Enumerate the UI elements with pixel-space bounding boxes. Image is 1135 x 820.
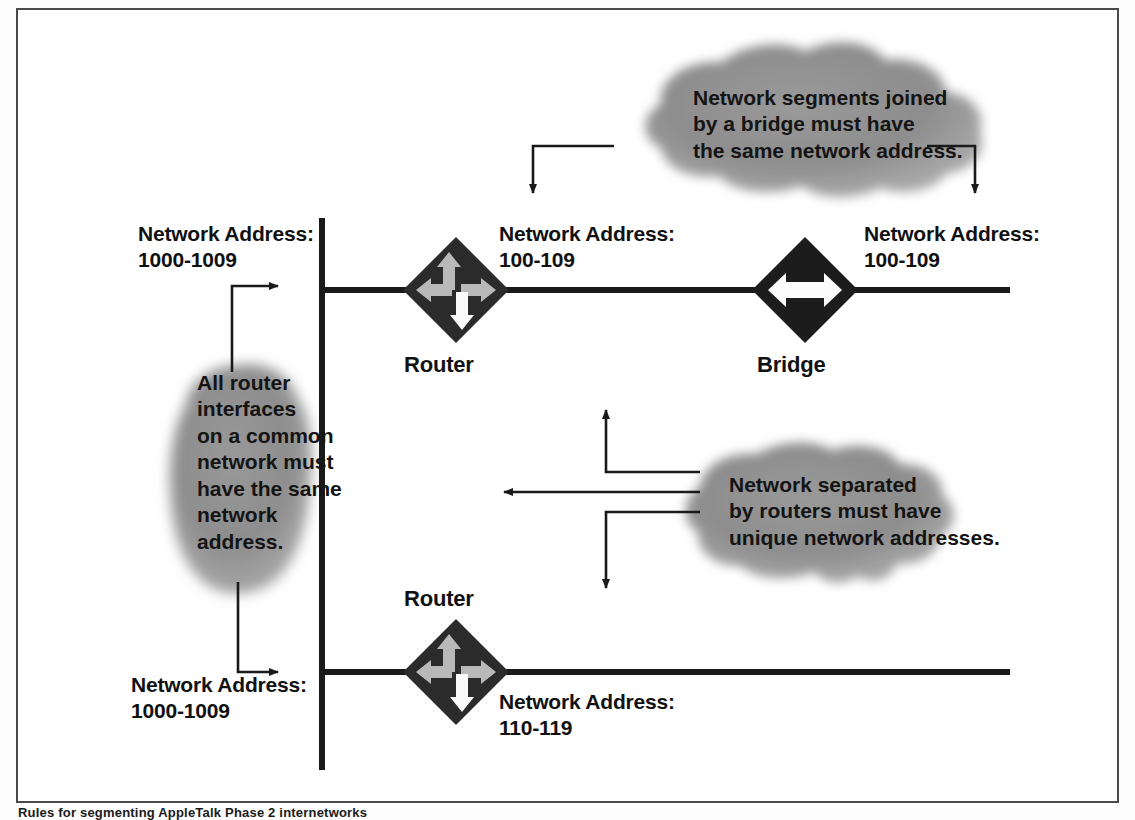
address-label-bottom-middle-title: Network Address: (499, 690, 675, 714)
leader-router-separation-rule-up (606, 410, 700, 472)
device-label-router-top: Router (404, 352, 474, 378)
leader-bridge-rule-left (533, 146, 614, 193)
callout-router-interface-rule-text: All router interfaces on a common networ… (197, 370, 342, 555)
device-label-router-bottom: Router (404, 586, 474, 612)
figure-caption: Rules for segmenting AppleTalk Phase 2 i… (18, 805, 367, 820)
router-top-icon[interactable] (403, 237, 509, 343)
address-label-top-right-range: 100-109 (864, 248, 940, 272)
callout-bridge-rule-text: Network segments joined by a bridge must… (693, 85, 963, 164)
leader-router-separation-rule-down (606, 512, 700, 588)
address-label-bottom-left-title: Network Address: (131, 673, 307, 697)
device-label-bridge: Bridge (757, 352, 825, 378)
address-label-top-left-range: 1000-1009 (138, 248, 237, 272)
callout-router-separation-rule-text: Network separated by routers must have u… (729, 472, 1000, 551)
leader-router-interface-rule-upper (232, 286, 278, 372)
address-label-top-right-title: Network Address: (864, 222, 1040, 246)
address-label-bottom-left-range: 1000-1009 (131, 699, 230, 723)
leader-router-interface-rule-lower (238, 582, 278, 672)
router-bottom-icon[interactable] (403, 619, 509, 725)
address-label-bottom-middle-range: 110-119 (499, 716, 572, 740)
address-label-top-left-title: Network Address: (138, 222, 314, 246)
figure-page: Network Address: 1000-1009 Network Addre… (0, 0, 1135, 820)
address-label-top-middle-range: 100-109 (499, 248, 575, 272)
bridge-icon[interactable] (752, 237, 858, 343)
address-label-top-middle-title: Network Address: (499, 222, 675, 246)
